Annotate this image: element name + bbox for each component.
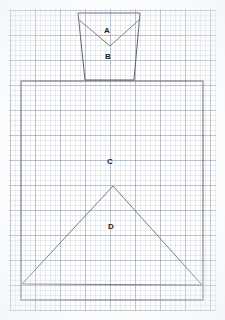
graph-paper-sheet: A B C D [0, 0, 225, 320]
region-label-b: B [105, 53, 111, 61]
region-label-a: A [104, 27, 110, 35]
region-label-d: D [108, 223, 114, 231]
region-label-c: C [107, 158, 113, 166]
